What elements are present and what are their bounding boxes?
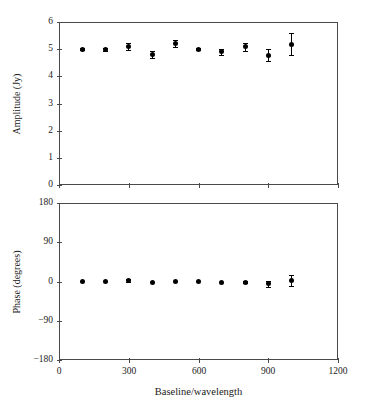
x-tick-mark [199, 358, 200, 363]
x-tick-label: 1200 [316, 367, 360, 377]
x-tick-mark [338, 358, 339, 363]
y-tick-label: 180 [19, 198, 53, 208]
y-tick-label: 6 [19, 17, 53, 27]
data-point-marker [289, 278, 294, 283]
y-tick-label: 0 [19, 277, 53, 287]
y-tick-label: 0 [19, 180, 53, 190]
y-tick-label: 5 [19, 44, 53, 54]
y-tick-mark [57, 321, 62, 322]
data-point-marker [196, 47, 201, 52]
data-point-marker [243, 280, 248, 285]
x-tick-mark [268, 358, 269, 363]
data-point-marker [150, 52, 155, 57]
error-bar-cap [289, 286, 294, 287]
error-bar-cap [266, 287, 271, 288]
y-tick-label: −180 [19, 355, 53, 365]
x-tick-mark [199, 183, 200, 188]
x-tick-label: 300 [107, 367, 151, 377]
data-point-marker [196, 279, 201, 284]
error-bar-cap [266, 49, 271, 50]
data-point-marker [289, 42, 294, 47]
x-tick-label: 600 [177, 367, 221, 377]
data-point-marker [173, 279, 178, 284]
error-bar-cap [289, 275, 294, 276]
x-tick-mark [59, 183, 60, 188]
x-tick-mark [59, 358, 60, 363]
data-point-marker [103, 279, 108, 284]
x-tick-label: 0 [37, 367, 81, 377]
error-bar-cap [289, 55, 294, 56]
data-point-marker [173, 41, 178, 46]
error-bar-cap [243, 51, 248, 52]
y-tick-mark [57, 242, 62, 243]
figure-canvas: 0123456 Amplitude (Jy) −180−90090180 030… [0, 0, 369, 410]
y-tick-mark [57, 203, 62, 204]
x-tick-mark [268, 183, 269, 188]
error-bar-cap [289, 33, 294, 34]
y-tick-mark [57, 76, 62, 77]
error-bar-cap [219, 55, 224, 56]
y-tick-mark [57, 49, 62, 50]
y-tick-label: 3 [19, 99, 53, 109]
y-tick-label: 1 [19, 153, 53, 163]
data-point-marker [80, 279, 85, 284]
error-bar-cap [173, 47, 178, 48]
data-point-marker [150, 280, 155, 285]
data-point-marker [266, 281, 271, 286]
error-bar-cap [266, 61, 271, 62]
x-tick-mark [129, 358, 130, 363]
y-tick-mark [57, 104, 62, 105]
data-point-marker [80, 47, 85, 52]
y-tick-mark [57, 158, 62, 159]
y-tick-label: 4 [19, 71, 53, 81]
y-tick-mark [57, 22, 62, 23]
y-tick-label: 2 [19, 126, 53, 136]
x-tick-mark [338, 183, 339, 188]
baseline-x-axis-title: Baseline/wavelength [59, 386, 338, 397]
y-tick-label: 90 [19, 237, 53, 247]
error-bar-cap [150, 58, 155, 59]
y-tick-mark [57, 282, 62, 283]
amplitude-y-axis-title: Amplitude (Jy) [11, 73, 22, 134]
y-tick-label: −90 [19, 316, 53, 326]
x-tick-label: 900 [246, 367, 290, 377]
y-tick-mark [57, 131, 62, 132]
error-bar-cap [126, 50, 131, 51]
x-tick-mark [129, 183, 130, 188]
phase-y-axis-title: Phase (degrees) [11, 250, 22, 313]
data-point-marker [103, 47, 108, 52]
data-point-marker [266, 53, 271, 58]
